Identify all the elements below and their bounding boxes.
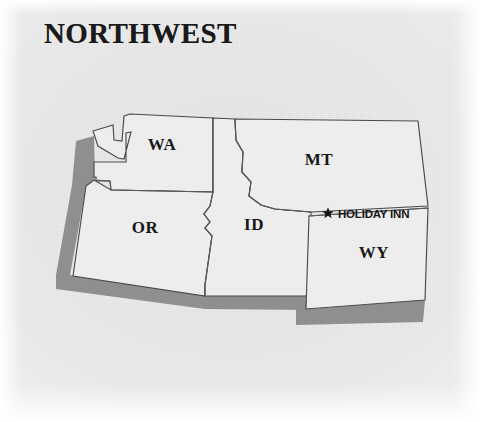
state-label-id: ID: [244, 215, 264, 234]
state-label-or: OR: [132, 218, 159, 237]
map-page: NORTHWEST: [0, 0, 480, 422]
state-label-wy: WY: [359, 243, 389, 262]
state-label-mt: MT: [305, 150, 334, 169]
state-label-wa: WA: [148, 135, 177, 154]
northwest-state-map: WA OR ID MT WY HOLIDAY INN: [0, 0, 480, 422]
poi-label-holiday-inn: HOLIDAY INN: [338, 208, 409, 220]
state-shape-or[interactable]: [73, 180, 213, 296]
